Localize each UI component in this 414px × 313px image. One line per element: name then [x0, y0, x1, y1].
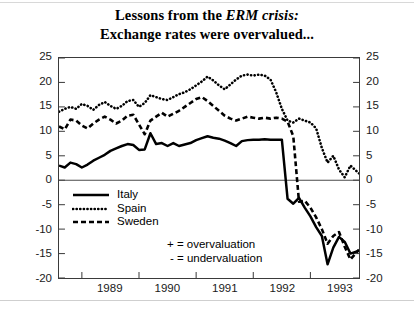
chart-title: Lessons from the ERM crisis: Exchange ra… [0, 6, 414, 44]
chart-title-line-1-text: Lessons from the [115, 7, 226, 23]
top-rule [0, 2, 414, 3]
y-tick-label-right: 0 [366, 174, 398, 186]
y-tick-label-right: 25 [366, 51, 398, 63]
chart-title-line-2: Exchange rates were overvalued... [0, 25, 414, 44]
chart-title-line-1: Lessons from the ERM crisis: [0, 6, 414, 25]
legend-swatch-spain [72, 203, 110, 214]
annotation-overvaluation: + = overvaluation [167, 237, 262, 251]
x-tick-label: 1993 [312, 283, 368, 295]
y-tick-label-left: 5 [20, 150, 52, 162]
x-tick-label: 1990 [139, 283, 195, 295]
y-tick-label-right: -15 [366, 248, 398, 260]
chart-title-emphasis: ERM crisis: [226, 7, 299, 23]
annotation-block: + = overvaluation - = undervaluation [167, 237, 262, 265]
legend-item-sweden[interactable]: Sweden [72, 215, 159, 229]
y-tick-label-right: -20 [366, 273, 398, 285]
y-tick-label-right: 15 [366, 100, 398, 112]
legend-label: Sweden [117, 215, 159, 229]
annotation-undervaluation: - = undervaluation [167, 251, 262, 265]
y-tick-label-right: 10 [366, 125, 398, 137]
y-tick-label-right: 5 [366, 150, 398, 162]
x-tick-label: 1992 [254, 283, 310, 295]
chart-figure: Lessons from the ERM crisis: Exchange ra… [0, 0, 414, 313]
y-tick-label-left: 20 [20, 76, 52, 88]
legend-swatch-sweden [72, 216, 110, 227]
bottom-rule [0, 300, 414, 301]
legend-item-italy[interactable]: Italy [72, 188, 159, 202]
series-line-sweden [59, 97, 359, 259]
y-tick-label-left: 25 [20, 51, 52, 63]
y-tick-label-left: -20 [20, 273, 52, 285]
data-series-group [59, 75, 359, 265]
y-tick-label-left: -5 [20, 199, 52, 211]
legend: ItalySpainSweden [72, 188, 159, 229]
legend-label: Spain [117, 202, 146, 216]
legend-swatch-italy [72, 189, 110, 200]
legend-label: Italy [117, 188, 138, 202]
y-tick-label-left: -10 [20, 224, 52, 236]
y-tick-label-right: 20 [366, 76, 398, 88]
x-tick-label: 1989 [82, 283, 138, 295]
y-tick-label-left: 10 [20, 125, 52, 137]
y-tick-label-right: -5 [366, 199, 398, 211]
y-tick-label-left: 0 [20, 174, 52, 186]
legend-item-spain[interactable]: Spain [72, 202, 159, 216]
y-tick-label-left: 15 [20, 100, 52, 112]
x-tick-label: 1991 [197, 283, 253, 295]
y-tick-label-left: -15 [20, 248, 52, 260]
y-tick-label-right: -10 [366, 224, 398, 236]
series-line-spain [59, 75, 359, 178]
